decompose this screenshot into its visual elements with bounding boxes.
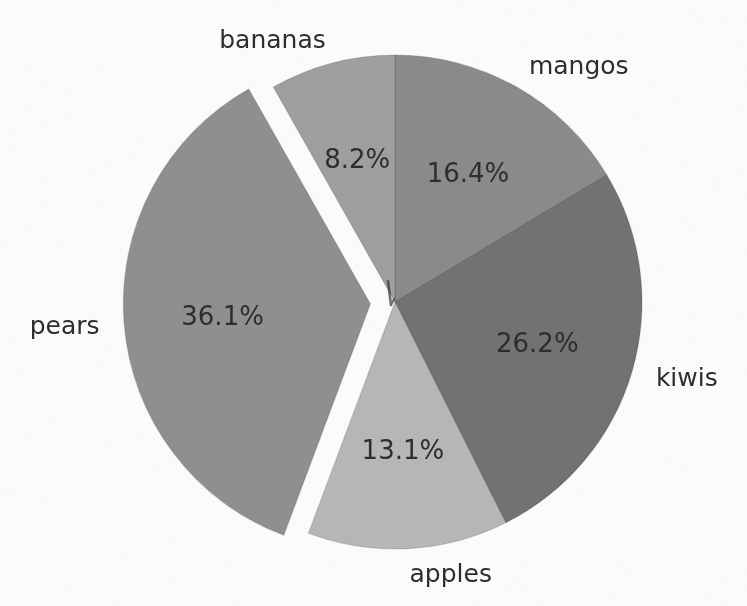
pie-chart: mangos16.4%kiwis26.2%apples13.1%pears36.… [0,0,747,606]
photo-grain-overlay [0,0,747,606]
pie-figure: mangos16.4%kiwis26.2%apples13.1%pears36.… [0,0,747,606]
